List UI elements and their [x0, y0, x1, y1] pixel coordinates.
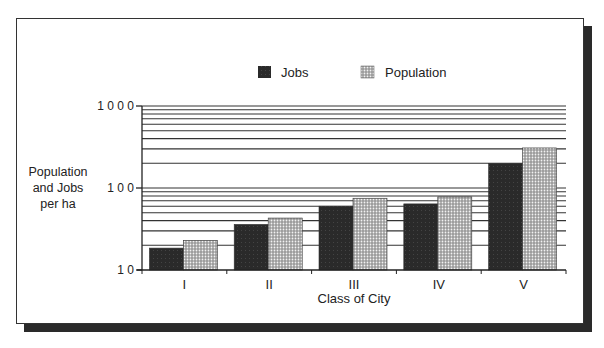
bar-jobs-V [489, 163, 523, 270]
chart-svg: Jobs Population 1 01 0 01 0 0 0IIIIIIIVV… [0, 0, 604, 348]
x-tick-label: I [183, 277, 187, 292]
bar-jobs-I [149, 248, 183, 270]
legend-population-swatch [361, 66, 374, 78]
y-axis-label: Populationand Jobsper ha [28, 165, 87, 211]
x-axis-label: Class of City [318, 291, 391, 306]
bar-population-II [268, 218, 302, 270]
legend-jobs-label: Jobs [281, 65, 309, 80]
y-tick-label: 1 0 [117, 263, 134, 277]
bar-jobs-III [319, 206, 353, 270]
bar-population-I [183, 240, 217, 270]
bar-population-V [523, 148, 557, 270]
svg-text:Population: Population [28, 165, 87, 179]
x-tick-label: IV [433, 277, 446, 292]
y-tick-label: 1 0 0 0 [97, 99, 134, 113]
bars [149, 148, 556, 270]
bar-population-III [353, 198, 387, 270]
legend-population-label: Population [385, 65, 446, 80]
svg-text:and Jobs: and Jobs [33, 181, 84, 195]
legend-jobs-swatch [258, 66, 271, 78]
svg-text:per ha: per ha [40, 197, 75, 211]
bar-jobs-IV [404, 204, 438, 270]
bar-population-IV [438, 197, 472, 270]
legend: Jobs Population [258, 65, 446, 80]
x-tick-label: II [266, 277, 273, 292]
x-tick-label: III [349, 277, 360, 292]
y-tick-label: 1 0 0 [107, 181, 134, 195]
bar-jobs-II [234, 224, 268, 270]
x-tick-label: V [519, 277, 528, 292]
